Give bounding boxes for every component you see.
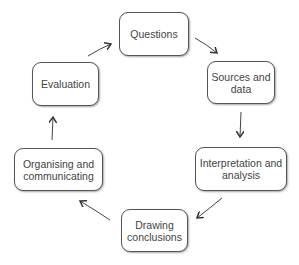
arrow-organising-to-evaluation bbox=[52, 117, 53, 140]
node-drawing-conclusions: Drawing conclusions bbox=[121, 209, 188, 252]
arrow-evaluation-to-questions bbox=[88, 44, 111, 56]
node-label: Sources and data bbox=[211, 71, 271, 95]
node-interpretation-and-analysis: Interpretation and analysis bbox=[195, 147, 287, 191]
node-label: Drawing conclusions bbox=[125, 219, 184, 243]
node-sources-and-data: Sources and data bbox=[207, 61, 275, 104]
node-label: Questions bbox=[130, 28, 177, 40]
node-evaluation: Evaluation bbox=[32, 62, 99, 106]
arrow-conclusions-to-organising bbox=[80, 201, 110, 220]
arrow-interpretation-to-conclusions bbox=[197, 198, 222, 218]
arrow-questions-to-sources bbox=[195, 38, 217, 53]
node-organising-and-communicating: Organising and communicating bbox=[14, 148, 103, 191]
node-label: Evaluation bbox=[41, 78, 90, 90]
arrow-sources-to-interpretation bbox=[240, 112, 241, 137]
node-questions: Questions bbox=[119, 12, 189, 56]
node-label: Interpretation and analysis bbox=[199, 157, 283, 181]
node-label: Organising and communicating bbox=[18, 158, 99, 182]
